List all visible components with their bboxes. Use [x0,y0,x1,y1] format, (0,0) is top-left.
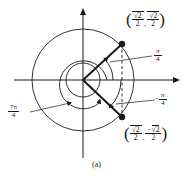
leader-seven-pi-over-4 [30,103,70,112]
lower-y-radical: √2 [152,125,160,134]
negative-pi-over-4-numerator: π [159,92,167,99]
lower-y-fraction: −√22 [145,125,161,142]
arc-seven-pi-over-4-arrowhead [96,99,101,105]
figure-caption: (a) [0,160,193,169]
upper-y-fraction: √22 [147,11,159,28]
lower-y-denominator: 2 [145,133,161,142]
point-upper-marker[interactable] [119,41,125,47]
point-lower-marker[interactable] [119,114,125,120]
close-paren: ) [159,13,165,27]
pi-over-4-denominator: 4 [154,55,162,63]
angle-negative-pi-over-4-label: −π4 [155,90,167,107]
seven-pi-over-4-fraction: 7π4 [8,104,19,119]
lower-y-numerator: −√2 [145,125,161,134]
y-axis-arrowhead [80,8,86,15]
point-lower-coordinate-label: (√22,−√22) [124,124,167,142]
pi-over-4-numerator: π [154,48,162,55]
x-axis-arrowhead [173,77,180,83]
terminal-ray-upper [83,44,122,80]
angle-pi-over-4-label: π4 [154,46,162,63]
upper-x-numerator: √2 [132,11,144,20]
upper-x-denominator: 2 [132,19,144,28]
lower-x-numerator: √2 [130,125,142,134]
lower-x-denominator: 2 [130,133,142,142]
close-paren-lower: ) [161,127,167,141]
point-upper-coordinate-label: (√22,√22) [126,10,165,28]
negative-pi-over-4-denominator: 4 [159,99,167,107]
seven-pi-over-4-numerator: 7π [8,104,19,111]
upper-y-numerator: √2 [147,11,159,20]
negative-pi-over-4-fraction: π4 [159,92,167,107]
upper-y-denominator: 2 [147,19,159,28]
seven-pi-over-4-denominator: 4 [8,111,19,119]
lower-x-fraction: √22 [130,125,142,142]
upper-x-fraction: √22 [132,11,144,28]
pi-over-4-fraction: π4 [154,48,162,63]
arc-negative-pi-over-4 [110,80,121,107]
leader-pi-over-4 [110,56,152,62]
angle-seven-pi-over-4-label: 7π4 [8,102,19,119]
